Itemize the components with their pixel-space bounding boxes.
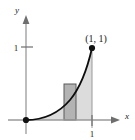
x-axis-arrowhead-icon xyxy=(111,117,120,124)
y-axis-arrowhead-icon xyxy=(23,15,30,24)
y-tick-label-1: 1 xyxy=(14,43,19,53)
representative-rectangle xyxy=(64,84,76,120)
x-tick-label-1: 1 xyxy=(90,129,95,139)
origin-point-marker xyxy=(23,117,29,123)
endpoint-point-marker xyxy=(89,45,95,51)
endpoint-coordinate-label: (1, 1) xyxy=(85,33,107,45)
y-axis-label: y xyxy=(14,5,19,15)
graph-canvas: y x 1 1 (1, 1) xyxy=(0,0,135,140)
figure-container: y x 1 1 (1, 1) xyxy=(0,0,135,140)
x-axis-label: x xyxy=(124,111,129,121)
